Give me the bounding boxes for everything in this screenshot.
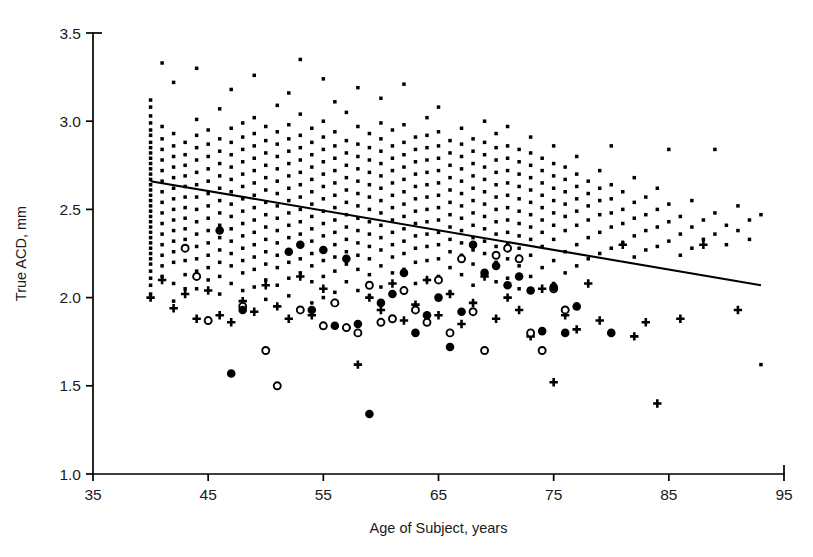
data-point-small-dot <box>195 257 199 261</box>
data-point-small-dot <box>356 142 360 146</box>
data-point-small-dot <box>506 231 510 235</box>
data-point-small-dot <box>529 213 533 217</box>
data-point-small-dot <box>160 158 164 162</box>
data-point-small-dot <box>252 243 256 247</box>
data-point-small-dot <box>241 172 245 176</box>
data-point-small-dot <box>149 151 153 155</box>
data-point-small-dot <box>310 141 314 145</box>
data-point-open-circle <box>562 306 569 313</box>
data-point-small-dot <box>471 174 475 178</box>
data-point-small-dot <box>287 162 291 166</box>
data-point-small-dot <box>379 211 383 215</box>
x-tick-label-45: 45 <box>200 486 217 503</box>
data-point-small-dot <box>529 188 533 192</box>
data-point-small-dot <box>172 186 176 190</box>
data-point-small-dot <box>437 105 441 109</box>
data-point-small-dot <box>690 199 694 203</box>
data-point-small-dot <box>299 195 303 199</box>
data-point-small-dot <box>368 257 372 261</box>
data-point-plus <box>573 325 581 333</box>
data-point-open-circle <box>331 299 338 306</box>
scatter-plot-figure: 1.01.52.02.53.03.535455565758595Age of S… <box>0 0 813 557</box>
series-small-dot <box>149 58 763 367</box>
data-point-small-dot <box>264 262 268 266</box>
data-point-small-dot <box>206 204 210 208</box>
data-point-small-dot <box>333 100 337 104</box>
data-point-small-dot <box>299 183 303 187</box>
data-point-small-dot <box>552 199 556 203</box>
data-point-small-dot <box>356 229 360 233</box>
data-point-small-dot <box>149 128 153 132</box>
data-point-open-circle <box>435 276 442 283</box>
data-point-small-dot <box>149 246 153 250</box>
data-point-small-dot <box>506 206 510 210</box>
data-point-small-dot <box>517 148 521 152</box>
data-point-small-dot <box>206 167 210 171</box>
y-tick-label-3.0: 3.0 <box>59 113 81 130</box>
data-point-small-dot <box>333 269 337 273</box>
data-point-small-dot <box>322 119 326 123</box>
data-point-small-dot <box>287 91 291 95</box>
data-point-small-dot <box>529 151 533 155</box>
data-point-small-dot <box>414 246 418 250</box>
data-point-small-dot <box>183 174 187 178</box>
data-point-small-dot <box>172 132 176 136</box>
data-point-small-dot <box>149 114 153 118</box>
data-point-filled-circle <box>538 327 547 336</box>
x-tick-label-65: 65 <box>430 486 447 503</box>
data-point-small-dot <box>310 190 314 194</box>
data-point-small-dot <box>218 186 222 190</box>
data-point-small-dot <box>287 224 291 228</box>
data-point-small-dot <box>229 141 233 145</box>
data-point-small-dot <box>149 252 153 256</box>
data-point-small-dot <box>679 215 683 219</box>
data-point-small-dot <box>345 164 349 168</box>
data-point-small-dot <box>149 188 153 192</box>
data-point-plus <box>596 316 604 324</box>
data-point-small-dot <box>206 241 210 245</box>
data-point-small-dot <box>218 211 222 215</box>
data-point-small-dot <box>299 257 303 261</box>
data-point-small-dot <box>483 239 487 243</box>
data-point-small-dot <box>368 195 372 199</box>
data-point-small-dot <box>368 245 372 249</box>
plot-canvas: 1.01.52.02.53.03.535455565758595Age of S… <box>0 0 813 557</box>
data-point-small-dot <box>506 276 510 280</box>
data-point-small-dot <box>149 199 153 203</box>
data-point-small-dot <box>183 141 187 145</box>
data-point-filled-circle <box>284 247 293 256</box>
data-point-small-dot <box>425 232 429 236</box>
data-point-small-dot <box>149 241 153 245</box>
data-point-small-dot <box>713 232 717 236</box>
data-point-small-dot <box>345 151 349 155</box>
data-point-small-dot <box>402 252 406 256</box>
data-point-small-dot <box>483 227 487 231</box>
x-tick-label-35: 35 <box>84 486 101 503</box>
data-point-small-dot <box>402 165 406 169</box>
data-point-small-dot <box>229 227 233 231</box>
data-point-small-dot <box>586 236 590 240</box>
data-point-open-circle <box>458 255 465 262</box>
data-point-small-dot <box>172 144 176 148</box>
data-point-small-dot <box>667 202 671 206</box>
data-point-small-dot <box>402 82 406 86</box>
data-point-small-dot <box>586 257 590 261</box>
data-point-filled-circle <box>238 306 247 315</box>
data-point-small-dot <box>391 156 395 160</box>
data-point-small-dot <box>195 208 199 212</box>
data-point-small-dot <box>195 171 199 175</box>
data-point-small-dot <box>206 278 210 282</box>
data-point-small-dot <box>322 296 326 300</box>
data-point-small-dot <box>437 169 441 173</box>
data-point-small-dot <box>448 201 452 205</box>
data-point-small-dot <box>748 238 752 242</box>
data-point-small-dot <box>149 194 153 198</box>
data-point-small-dot <box>483 141 487 145</box>
data-point-small-dot <box>575 243 579 247</box>
data-point-small-dot <box>506 181 510 185</box>
data-point-small-dot <box>206 179 210 183</box>
data-point-small-dot <box>276 204 280 208</box>
data-point-small-dot <box>379 174 383 178</box>
data-point-small-dot <box>437 156 441 160</box>
x-tick-label-85: 85 <box>660 486 677 503</box>
